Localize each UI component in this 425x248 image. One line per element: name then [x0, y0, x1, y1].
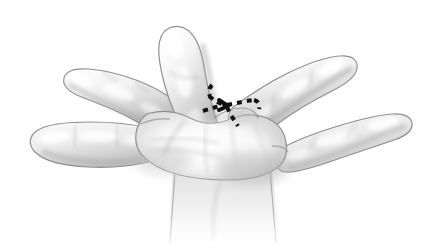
hand-illustration-figure: Hand with surgical incision marking	[0, 0, 425, 248]
web-space-shading	[216, 109, 256, 123]
ring-finger-highlight-mid	[78, 130, 118, 142]
palm-ulnar-shadow	[216, 152, 288, 184]
hand-illustration-svg	[0, 0, 425, 248]
